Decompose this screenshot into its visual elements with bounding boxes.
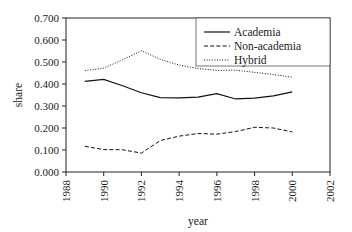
y-tick-label: 0.100 [34,144,59,156]
x-tick-label: 1994 [173,180,185,203]
y-tick-label: 0.300 [34,100,59,112]
x-tick-label: 1990 [98,180,110,203]
y-tick-label: 0.000 [34,166,59,178]
series-line-academia [85,79,292,99]
legend-label-academia: Academia [234,26,281,38]
y-axis-title: share [12,83,24,107]
y-tick-label: 0.500 [34,56,59,68]
x-tick-label: 1998 [249,180,261,203]
x-tick-label: 2000 [286,180,298,203]
x-tick-label: 1988 [60,180,72,203]
series-line-non-academia [85,127,292,153]
chart-legend: AcademiaNon-academiaHybrid [196,18,330,67]
y-axis-ticks: 0.0000.1000.2000.3000.4000.5000.6000.700 [34,12,66,178]
y-tick-label: 0.200 [34,122,59,134]
x-axis-title: year [188,215,208,228]
chart-figure: 0.0000.1000.2000.3000.4000.5000.6000.700… [0,0,352,232]
y-tick-label: 0.700 [34,12,59,24]
legend-label-non-academia: Non-academia [234,40,301,52]
y-tick-label: 0.400 [34,78,59,90]
x-tick-label: 1992 [135,180,147,202]
y-tick-label: 0.600 [34,34,59,46]
legend-label-hybrid: Hybrid [234,54,267,67]
x-axis-ticks: 19881990199219941996199820002002 [60,172,336,202]
x-tick-label: 2002 [324,180,336,202]
x-tick-label: 1996 [211,180,223,203]
